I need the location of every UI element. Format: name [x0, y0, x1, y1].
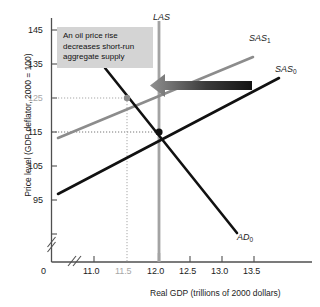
origin-label: 0: [41, 266, 46, 276]
aggregate-supply-demand-chart: 145 135 125 115 105 95 0 11.0 11.5 12.0 …: [0, 0, 320, 307]
y-axis-title: Price level (GDP deflator, 2000 = 100): [23, 45, 33, 205]
x-tick-label-12-0: 12.0: [147, 266, 164, 276]
curve-sas1: [58, 57, 253, 138]
annotation-line-3: aggregate supply: [63, 52, 148, 63]
oil-price-annotation-box: An oil price rise decreases short-run ag…: [57, 27, 153, 68]
y-tick-label-95: 95: [33, 195, 43, 205]
curve-label-sas1: SAS1: [249, 33, 271, 43]
curve-label-las-text: LAS: [153, 12, 170, 22]
x-tick-label-12-5: 12.5: [179, 266, 196, 276]
x-tick-label-13-5: 13.5: [243, 266, 260, 276]
annotation-line-2: decreases short-run: [63, 42, 148, 53]
point-initial-equilibrium: [155, 128, 162, 135]
x-axis-break-icon: [68, 256, 81, 266]
curve-label-ad0: AD0: [237, 232, 253, 242]
curve-label-las: LAS: [153, 12, 170, 22]
curve-ad0: [105, 68, 237, 233]
curve-label-sas0: SAS0: [275, 64, 297, 74]
annotation-line-1: An oil price rise: [63, 31, 148, 42]
x-tick-label-11-0: 11.0: [83, 266, 99, 276]
x-tick-label-11-5: 11.5: [115, 266, 131, 276]
y-tick-label-145: 145: [28, 25, 43, 35]
curve-label-sas0-text: SAS: [275, 64, 293, 74]
x-tick-label-13-0: 13.0: [211, 266, 228, 276]
curve-label-sas0-sub: 0: [293, 68, 297, 75]
curve-label-sas1-sub: 1: [267, 37, 271, 44]
curve-label-ad0-sub: 0: [250, 236, 254, 243]
curve-label-sas1-text: SAS: [249, 33, 267, 43]
x-axis-title: Real GDP (trillions of 2000 dollars): [150, 288, 281, 298]
curve-sas0: [58, 78, 279, 194]
chart-canvas: [0, 0, 320, 307]
point-new-equilibrium: [124, 95, 130, 101]
x-tick-marks: [94, 256, 254, 262]
curve-label-ad0-text: AD: [237, 232, 250, 242]
